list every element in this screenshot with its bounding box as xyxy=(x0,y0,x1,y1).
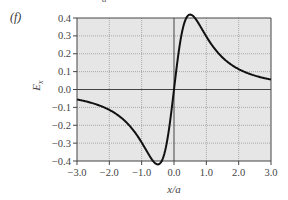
x-tick-label: 0.0 xyxy=(167,167,180,178)
x-axis-label: x/a xyxy=(166,183,181,195)
y-tick-label: 0.3 xyxy=(58,30,71,41)
y-tick-label: −0.4 xyxy=(52,156,72,167)
x-tick-label: 3.0 xyxy=(264,167,277,178)
y-tick-label: −0.3 xyxy=(52,138,71,149)
y-tick-label: 0.1 xyxy=(58,66,71,77)
y-tick-label: −0.1 xyxy=(52,102,71,113)
x-tick-label: −2.0 xyxy=(100,167,119,178)
y-axis-label: Ex xyxy=(30,80,45,92)
y-tick-label: −0.2 xyxy=(52,120,71,131)
x-tick-label: 2.0 xyxy=(232,167,245,178)
line-chart: 0.40.30.20.10.0−0.1−0.2−0.3−0.4−3.0−2.0−… xyxy=(0,0,288,200)
y-tick-label: 0.4 xyxy=(58,13,72,24)
y-tick-label: 0.0 xyxy=(58,84,71,95)
y-tick-label: 0.2 xyxy=(58,48,71,59)
x-tick-label: −1.0 xyxy=(132,167,151,178)
x-tick-label: −3.0 xyxy=(67,167,86,178)
x-tick-label: 1.0 xyxy=(200,167,213,178)
